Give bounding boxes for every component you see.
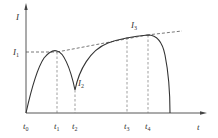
envelope-line	[57, 35, 147, 52]
y-axis-arrow-icon	[24, 3, 27, 10]
x-axis-arrow-icon	[200, 111, 207, 114]
label-t0: t0	[23, 121, 29, 132]
diagram-canvas: I t I1 I2 I3 t0 t1 t2 t3 t4	[0, 0, 218, 138]
envelope-dashed	[26, 31, 182, 52]
current-curve	[26, 35, 170, 113]
y-axis-label: I	[15, 12, 20, 22]
current-time-diagram: I t I1 I2 I3 t0 t1 t2 t3 t4	[0, 0, 218, 138]
x-axis-label: t	[197, 122, 200, 132]
label-t2: t2	[72, 121, 78, 132]
label-t3: t3	[124, 121, 130, 132]
label-I3: I3	[130, 20, 137, 31]
label-I1: I1	[12, 47, 19, 58]
label-I2: I2	[77, 78, 84, 89]
label-t1: t1	[54, 121, 60, 132]
label-t4: t4	[145, 121, 151, 132]
envelope-extension	[147, 31, 182, 35]
axes	[24, 3, 207, 115]
